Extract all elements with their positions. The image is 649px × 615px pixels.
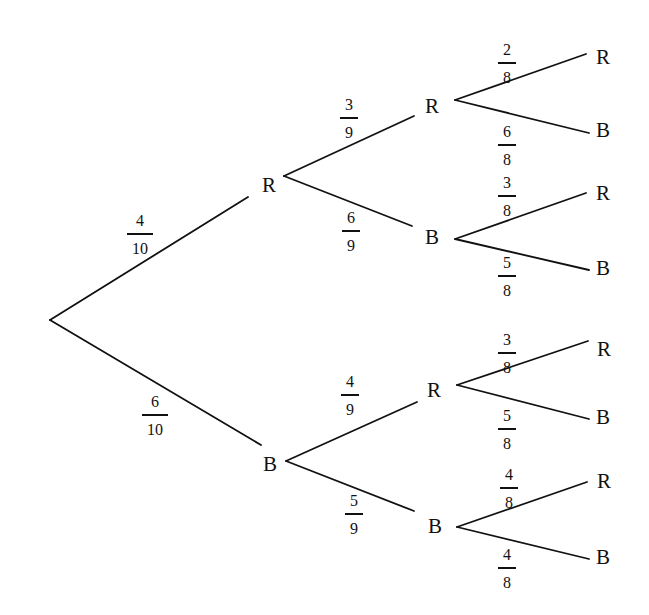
probability-fraction: 610 xyxy=(142,393,168,438)
fraction-denominator: 8 xyxy=(503,435,511,452)
fraction-denominator: 9 xyxy=(345,124,353,141)
outcome-node-L3-BRB: B xyxy=(596,405,610,429)
fraction-denominator: 8 xyxy=(503,282,511,299)
fraction-denominator: 8 xyxy=(503,574,511,591)
outcome-node-L3-RRR: R xyxy=(596,45,610,69)
probability-fraction: 39 xyxy=(340,96,358,141)
fraction-numerator: 6 xyxy=(347,209,355,226)
outcome-node-L3-BBR: R xyxy=(597,469,611,493)
outcome-node-L2-BB: B xyxy=(428,514,442,538)
probability-fraction: 59 xyxy=(345,492,363,537)
probability-fraction: 48 xyxy=(500,466,518,511)
outcome-node-L3-RBB: B xyxy=(596,256,610,280)
fraction-denominator: 9 xyxy=(347,237,355,254)
probability-tree-diagram: 410610396949592868385838584848 RBRBRBRBR… xyxy=(0,0,649,615)
fraction-denominator: 9 xyxy=(350,520,358,537)
fraction-denominator: 9 xyxy=(346,401,354,418)
fraction-numerator: 6 xyxy=(151,393,159,410)
branch-line-L2-RR-to-L3-RRR xyxy=(455,54,586,100)
probability-fraction: 48 xyxy=(498,546,516,591)
branch-line-L2-RB-to-L3-RBB xyxy=(455,239,589,270)
probability-fraction: 68 xyxy=(498,123,516,168)
branch-line-root-to-L1-R xyxy=(50,197,248,320)
outcome-node-L3-BBB: B xyxy=(596,545,610,569)
probability-fraction: 69 xyxy=(342,209,360,254)
outcome-node-L1-B: B xyxy=(263,452,277,476)
fraction-denominator: 8 xyxy=(503,202,511,219)
probability-fraction: 38 xyxy=(498,174,516,219)
outcome-node-L3-BRR: R xyxy=(597,337,611,361)
fraction-numerator: 4 xyxy=(503,546,511,563)
fraction-denominator: 8 xyxy=(503,69,511,86)
outcome-nodes-layer: RBRBRBRBRBRBRB xyxy=(262,45,611,569)
fraction-numerator: 3 xyxy=(503,174,511,191)
fraction-denominator: 10 xyxy=(132,240,148,257)
branch-line-L2-RR-to-L3-RRB xyxy=(455,100,589,133)
fraction-numerator: 4 xyxy=(136,212,144,229)
fraction-numerator: 3 xyxy=(503,331,511,348)
fraction-numerator: 6 xyxy=(503,123,511,140)
outcome-node-L3-RRB: B xyxy=(596,118,610,142)
fraction-denominator: 8 xyxy=(503,359,511,376)
fraction-denominator: 10 xyxy=(147,421,163,438)
branch-line-L2-BB-to-L3-BBB xyxy=(457,527,589,559)
outcome-node-L3-RBR: R xyxy=(596,181,610,205)
fraction-denominator: 8 xyxy=(505,494,513,511)
branch-line-L2-BR-to-L3-BRB xyxy=(457,385,589,419)
fraction-numerator: 5 xyxy=(350,492,358,509)
branch-line-L2-BR-to-L3-BRR xyxy=(457,341,588,385)
fraction-numerator: 2 xyxy=(503,41,511,58)
fraction-numerator: 4 xyxy=(505,466,513,483)
fraction-numerator: 3 xyxy=(345,96,353,113)
outcome-node-L2-BR: R xyxy=(427,378,441,402)
probability-fraction: 58 xyxy=(498,254,516,299)
probability-labels-layer: 410610396949592868385838584848 xyxy=(127,41,518,591)
fraction-numerator: 5 xyxy=(503,407,511,424)
branch-line-L2-BB-to-L3-BBR xyxy=(457,482,587,527)
probability-fraction: 38 xyxy=(498,331,516,376)
fraction-numerator: 4 xyxy=(346,373,354,390)
outcome-node-L2-RR: R xyxy=(425,94,439,118)
fraction-denominator: 8 xyxy=(503,151,511,168)
outcome-node-L1-R: R xyxy=(262,173,276,197)
fraction-numerator: 5 xyxy=(503,254,511,271)
probability-fraction: 410 xyxy=(127,212,153,257)
probability-fraction: 58 xyxy=(498,407,516,452)
probability-fraction: 49 xyxy=(341,373,359,418)
outcome-node-L2-RB: B xyxy=(425,225,439,249)
branch-line-L2-RB-to-L3-RBR xyxy=(455,193,586,239)
